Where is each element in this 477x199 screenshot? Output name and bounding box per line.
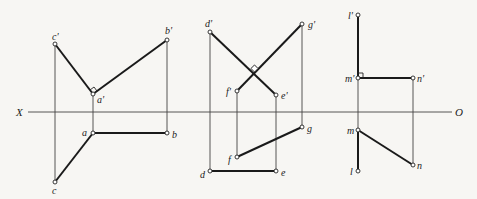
- point-g: [300, 125, 304, 129]
- point-b-prime: [165, 38, 169, 42]
- point-c-prime: [53, 42, 57, 46]
- point-l-prime: [356, 13, 360, 17]
- label-a-prime: a': [97, 94, 105, 105]
- label-l-prime: l': [348, 10, 354, 21]
- label-n: n: [417, 160, 422, 171]
- label-d: d: [200, 169, 206, 180]
- point-m: [356, 128, 360, 132]
- point-g-prime: [300, 22, 304, 26]
- label-e: e: [281, 167, 286, 178]
- label-b-prime: b': [165, 25, 173, 36]
- label-b: b: [172, 129, 177, 140]
- label-f: f: [228, 154, 232, 165]
- point-d: [208, 169, 212, 173]
- line-f-g: [237, 127, 302, 157]
- figure-1: c' a' b' c a b: [52, 25, 177, 196]
- axis-label-x: X: [15, 106, 24, 118]
- point-a: [91, 131, 95, 135]
- orthographic-projection-diagram: X O c' a' b' c a b: [0, 0, 477, 199]
- point-m-prime: [356, 76, 360, 80]
- label-l: l: [350, 166, 353, 177]
- axis-label-o: O: [455, 106, 463, 118]
- point-b: [165, 131, 169, 135]
- label-c-prime: c': [52, 31, 59, 42]
- point-l: [356, 169, 360, 173]
- line-a-c: [55, 133, 93, 182]
- figure-3: l' m' n' m l n: [345, 10, 425, 177]
- label-e-prime: e': [281, 90, 288, 101]
- label-m-prime: m': [345, 73, 355, 84]
- label-d-prime: d': [205, 18, 213, 29]
- figure-2: d' e' f' g' d e f g: [200, 18, 316, 180]
- label-m: m: [347, 125, 354, 136]
- point-e: [274, 169, 278, 173]
- label-c: c: [52, 185, 57, 196]
- label-g: g: [307, 123, 312, 134]
- point-c: [53, 180, 57, 184]
- line-c-prime-a-prime: [55, 44, 93, 94]
- label-n-prime: n': [417, 73, 425, 84]
- point-n-prime: [411, 76, 415, 80]
- point-a-prime: [91, 92, 95, 96]
- point-n: [411, 163, 415, 167]
- point-f-prime: [235, 89, 239, 93]
- label-f-prime: f': [226, 86, 232, 97]
- line-a-prime-b-prime: [93, 40, 167, 94]
- point-e-prime: [274, 93, 278, 97]
- point-f: [235, 155, 239, 159]
- line-f-prime-g-prime: [237, 24, 302, 91]
- label-g-prime: g': [308, 19, 316, 30]
- line-m-n: [358, 130, 413, 165]
- point-d-prime: [208, 30, 212, 34]
- label-a: a: [82, 127, 87, 138]
